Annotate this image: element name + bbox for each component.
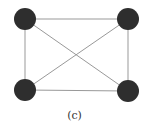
node-bottom-right bbox=[117, 80, 139, 102]
node-top-right bbox=[117, 8, 139, 30]
node-bottom-left bbox=[14, 79, 36, 101]
edge-bottom bbox=[25, 90, 128, 91]
graph-diagram bbox=[0, 0, 149, 127]
node-top-left bbox=[14, 8, 36, 30]
figure-caption: (c) bbox=[0, 109, 149, 122]
edges bbox=[25, 19, 128, 91]
